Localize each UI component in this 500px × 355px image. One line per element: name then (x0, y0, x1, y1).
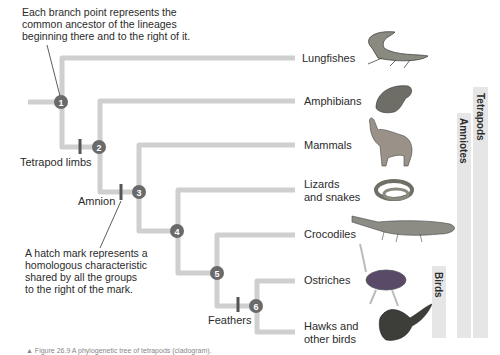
hatch-mark-annotation: A hatch mark represents a homologous cha… (25, 247, 148, 295)
branch-mammals (139, 145, 295, 192)
snake-illustration (376, 181, 412, 199)
svg-text:3: 3 (136, 188, 141, 198)
taxon-label-lungfishes: Lungfishes (302, 52, 355, 65)
annotation-line: A hatch mark represents a (25, 247, 148, 259)
annotation-line: to the right of the mark. (25, 283, 148, 295)
clade-label-amniotes: Amniotes (458, 118, 469, 164)
annotation-line: homologous characteristic (25, 259, 148, 271)
trait-label-tetrapod-limbs: Tetrapod limbs (20, 156, 92, 168)
branch-lungfishes (62, 58, 295, 102)
wolf-illustration (369, 118, 412, 166)
label-line: Hawks and (304, 320, 358, 333)
annotation-line: Each branch point represents the (22, 6, 190, 18)
clade-label-tetrapods: Tetrapods (475, 93, 486, 141)
branch-to-node-5 (178, 231, 217, 273)
annotation-line: shared by all the groups (25, 271, 148, 283)
frog-illustration (376, 86, 412, 113)
taxon-label-hawks-and-other-birds: Hawks and other birds (304, 320, 358, 345)
annotation-line: common ancestor of the lineages (22, 18, 190, 30)
branch-point-annotation: Each branch point represents the common … (22, 6, 190, 42)
hawk-illustration (379, 304, 432, 340)
annotation-line: beginning there and to the right of it. (22, 30, 190, 42)
branch-hawks (257, 306, 295, 332)
branch-lizards (178, 190, 295, 231)
crocodile-illustration (352, 216, 455, 242)
pointer-branch-point (47, 45, 60, 96)
branch-amphibians (100, 101, 295, 147)
figure-caption: ▲ Figure 26.9 A phylogenetic tree of tet… (26, 347, 212, 354)
branch-to-node-4 (139, 192, 177, 231)
trait-label-amnion: Amnion (78, 195, 115, 207)
branch-ostriches (257, 281, 295, 306)
taxon-label-lizards-and-snakes: Lizards and snakes (304, 178, 360, 203)
phylogenetic-tree: 1 2 3 4 5 6 (0, 0, 500, 355)
label-line: and snakes (304, 191, 360, 204)
svg-text:4: 4 (174, 227, 179, 237)
branch-crocodiles (217, 235, 295, 273)
taxon-label-ostriches: Ostriches (304, 274, 350, 287)
trait-label-feathers: Feathers (208, 314, 251, 326)
label-line: other birds (304, 333, 358, 346)
taxon-label-crocodiles: Crocodiles (304, 228, 356, 241)
taxon-label-amphibians: Amphibians (304, 95, 361, 108)
svg-text:5: 5 (214, 269, 219, 279)
svg-text:6: 6 (253, 302, 258, 312)
ostrich-illustration (360, 244, 406, 306)
lungfish-illustration (368, 32, 428, 68)
svg-text:2: 2 (96, 143, 101, 153)
clade-label-birds: Birds (433, 272, 444, 298)
pointer-hatch-mark (100, 201, 121, 248)
svg-text:1: 1 (58, 98, 63, 108)
label-line: Lizards (304, 178, 360, 191)
taxon-label-mammals: Mammals (304, 139, 352, 152)
